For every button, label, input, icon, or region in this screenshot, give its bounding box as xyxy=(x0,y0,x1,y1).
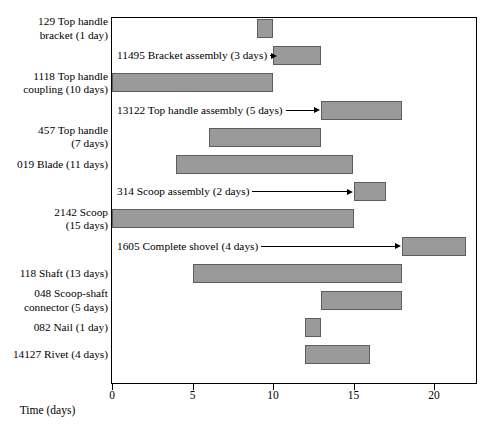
task-annotation: 1605 Complete shovel (4 days) xyxy=(117,239,401,253)
task-axis-label: 457 Top handle (7 days) xyxy=(0,124,108,150)
x-axis-title-text: Time (days) xyxy=(20,404,75,416)
task-row: 2142 Scoop (15 days) xyxy=(0,209,493,236)
task-bar[interactable] xyxy=(354,182,386,201)
task-bar[interactable] xyxy=(176,155,353,174)
annotation-leader-line xyxy=(286,110,316,111)
task-bar[interactable] xyxy=(321,101,402,120)
task-bar[interactable] xyxy=(112,73,273,92)
gantt-chart: 129 Top handle bracket (1 day)11495 Brac… xyxy=(0,0,493,426)
task-bar[interactable] xyxy=(193,264,402,283)
task-row: 082 Nail (1 day) xyxy=(0,318,493,345)
task-axis-label: 14127 Rivet (4 days) xyxy=(0,348,108,361)
task-bar[interactable] xyxy=(257,19,273,38)
task-bar[interactable] xyxy=(305,318,321,337)
x-axis-title: Time (days) xyxy=(0,404,493,416)
task-row: 129 Top handle bracket (1 day) xyxy=(0,19,493,46)
annotation-leader-line xyxy=(252,191,347,192)
task-axis-label: 2142 Scoop (15 days) xyxy=(0,206,108,232)
task-bar[interactable] xyxy=(273,46,321,65)
task-row: 019 Blade (11 days) xyxy=(0,155,493,182)
task-axis-label: 019 Blade (11 days) xyxy=(0,158,108,171)
task-annotation-text: 314 Scoop assembly (2 days) xyxy=(117,185,252,198)
task-axis-label: 129 Top handle bracket (1 day) xyxy=(0,15,108,41)
task-bar[interactable] xyxy=(321,291,402,310)
task-annotation-text: 11495 Bracket assembly (3 days) xyxy=(117,49,270,62)
task-annotation: 314 Scoop assembly (2 days) xyxy=(117,185,353,199)
task-bar[interactable] xyxy=(305,345,369,364)
annotation-leader-line xyxy=(270,55,272,56)
task-annotation: 11495 Bracket assembly (3 days) xyxy=(117,49,277,63)
task-bar[interactable] xyxy=(209,128,322,147)
task-row: 1605 Complete shovel (4 days) xyxy=(0,237,493,264)
task-row: 457 Top handle (7 days) xyxy=(0,128,493,155)
task-axis-label: 082 Nail (1 day) xyxy=(0,321,108,334)
task-axis-label: 1118 Top handle coupling (10 days) xyxy=(0,70,108,96)
task-row: 048 Scoop-shaft connector (5 days) xyxy=(0,291,493,318)
task-row: 1118 Top handle coupling (10 days) xyxy=(0,73,493,100)
task-axis-label: 118 Shaft (13 days) xyxy=(0,267,108,280)
task-bar[interactable] xyxy=(112,209,354,228)
task-row: 14127 Rivet (4 days) xyxy=(0,345,493,372)
annotation-leader-line xyxy=(261,246,396,247)
task-annotation-text: 1605 Complete shovel (4 days) xyxy=(117,240,261,253)
task-annotation: 13122 Top handle assembly (5 days) xyxy=(117,103,320,117)
task-bar[interactable] xyxy=(402,237,466,256)
x-axis-tick-label: 15 xyxy=(339,389,369,401)
x-axis-tick-label: 5 xyxy=(178,389,208,401)
task-axis-label: 048 Scoop-shaft connector (5 days) xyxy=(0,287,108,313)
task-annotation-text: 13122 Top handle assembly (5 days) xyxy=(117,104,286,117)
x-axis-tick-label: 0 xyxy=(97,389,127,401)
x-axis-tick-label: 10 xyxy=(258,389,288,401)
x-axis-tick-label: 20 xyxy=(419,389,449,401)
